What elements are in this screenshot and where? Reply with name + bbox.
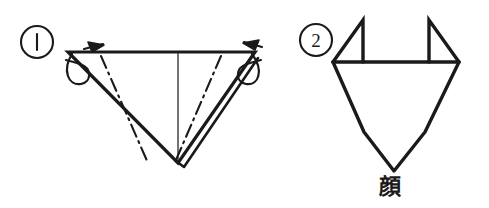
step-2-digit: 2 <box>311 30 321 51</box>
step-2-group: 2 <box>300 20 459 171</box>
step-1-fold-line-left <box>101 56 148 163</box>
curl-arrow-right <box>238 40 262 84</box>
step-2-number-badge: 2 <box>300 24 332 56</box>
step-2-chin-outline <box>333 62 459 171</box>
step-1-group <box>21 26 262 167</box>
step-2-ear-left <box>333 20 363 62</box>
step-1-number-badge <box>21 26 53 58</box>
curl-arrow-left <box>66 42 104 84</box>
step-2-caption-kanji: 顔 <box>368 176 412 198</box>
diagram-canvas: 2 顔 <box>0 0 489 208</box>
step-1-triangle-outline <box>68 52 255 163</box>
step-2-ear-right <box>429 20 459 62</box>
origami-instruction-figure: 2 <box>0 0 489 208</box>
